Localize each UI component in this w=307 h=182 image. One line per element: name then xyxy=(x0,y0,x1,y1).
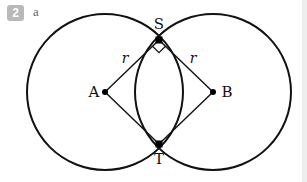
label-t: T xyxy=(154,150,164,168)
two-circles-diagram: S T A B r r xyxy=(0,0,307,182)
page-edge xyxy=(302,0,307,182)
point-s xyxy=(156,37,163,44)
segment-bs xyxy=(159,40,213,92)
point-t xyxy=(156,141,163,148)
segment-at xyxy=(105,92,159,144)
label-r-left: r xyxy=(122,50,130,66)
segment-as xyxy=(105,40,159,92)
label-s: S xyxy=(154,15,164,33)
segment-bt xyxy=(159,92,213,144)
point-b xyxy=(210,89,216,95)
point-a xyxy=(102,89,108,95)
figure: 2 a S T A B r r xyxy=(0,0,307,182)
right-angle-marker xyxy=(153,46,166,52)
label-a: A xyxy=(88,83,100,101)
label-b: B xyxy=(221,83,232,101)
label-r-right: r xyxy=(190,50,198,66)
